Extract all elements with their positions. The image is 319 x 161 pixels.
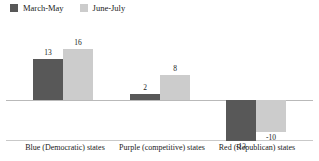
x-axis-labels: Blue (Democratic) states Purple (competi…	[0, 144, 319, 161]
bar[interactable]	[63, 49, 93, 100]
bar-value-label: -10	[251, 134, 291, 142]
legend-swatch-march-may	[10, 4, 18, 12]
bar[interactable]	[33, 59, 63, 100]
bar-value-label: 16	[58, 39, 98, 47]
legend-item-june-july: June-July	[80, 4, 126, 13]
legend-label-june-july: June-July	[93, 4, 126, 13]
bar-group: 28	[130, 24, 190, 140]
plot-area: 131628-13-10	[0, 24, 319, 140]
legend-label-march-may: March-May	[23, 4, 64, 13]
legend-swatch-june-july	[80, 4, 88, 12]
bar[interactable]	[256, 100, 286, 132]
bar[interactable]	[160, 75, 190, 100]
bar-group: -13-10	[226, 24, 286, 140]
x-axis-label-red-states: Red (Republican) states	[198, 144, 316, 152]
bar[interactable]	[130, 94, 160, 100]
bar-value-label: 2	[125, 84, 165, 92]
bar-group: 1316	[33, 24, 93, 140]
legend-item-march-may: March-May	[10, 4, 64, 13]
bar-value-label: 8	[155, 65, 195, 73]
chart-legend: March-May June-July	[10, 4, 125, 13]
bar-value-label: 13	[28, 49, 68, 57]
grouped-bar-chart: March-May June-July 131628-13-10 Blue (D…	[0, 0, 319, 161]
